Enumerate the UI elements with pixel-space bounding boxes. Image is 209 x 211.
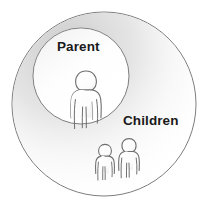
- parent-set-label: Parent: [57, 40, 100, 54]
- set-diagram-graphic: [0, 0, 209, 211]
- children-set-label: Children: [123, 114, 179, 128]
- diagram-canvas: Parent Children: [0, 0, 209, 211]
